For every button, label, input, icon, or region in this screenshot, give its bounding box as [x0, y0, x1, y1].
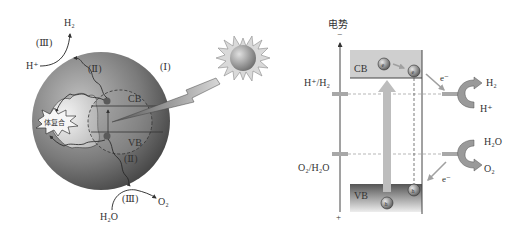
cb-label-left: CB [128, 93, 142, 104]
oxidation-product-right: O₂ [484, 163, 495, 174]
oxidation-product-left: O₂ [158, 196, 169, 207]
stage-label-transfer-bottom: (Ⅱ) [124, 153, 137, 165]
excitation-arrow-shaft [383, 90, 391, 192]
vb-label-right: VB [354, 190, 368, 201]
reduction-reactant-right: H⁺ [480, 103, 493, 114]
oxidation-reactant-right: H₂O [484, 136, 502, 147]
sun-icon [216, 36, 270, 81]
electron-cb-2: e [408, 65, 420, 77]
stage-label-reaction-top: (Ⅲ) [36, 37, 52, 49]
level-label-o2: O₂/H₂O [298, 162, 329, 173]
hole-dot [104, 133, 111, 140]
stage-label-transfer-top: (Ⅱ) [88, 63, 101, 75]
reduction-reactant-left: H⁺ [26, 60, 39, 71]
left-panel: CB VB 体复合 (Ⅰ) (Ⅱ) (Ⅱ) (Ⅲ) (Ⅲ) H⁺ H₂ H₂O … [26, 17, 270, 222]
vb-label-left: VB [128, 137, 142, 148]
svg-text:h: h [412, 188, 415, 194]
hole-vb-1: h [381, 197, 393, 209]
electron-dot [104, 98, 111, 105]
stage-label-reaction-bottom: (Ⅲ) [122, 193, 138, 205]
excitation-arrow-head [378, 80, 396, 92]
hole-arrow-label: e⁻ [442, 174, 451, 184]
hole-vb-2: h [408, 184, 420, 196]
svg-text:e: e [382, 62, 385, 68]
stage-label-absorption: (Ⅰ) [160, 61, 171, 73]
right-panel: 电势 − + H⁺/H₂ O₂/H₂O CB VB e e [298, 18, 502, 222]
svg-text:e: e [412, 69, 415, 75]
level-tick-o2 [332, 152, 348, 156]
reduction-product-left: H₂ [64, 17, 75, 28]
reduction-curved-arrow-icon [458, 77, 482, 108]
axis-top-sign: − [337, 29, 342, 39]
svg-text:h: h [385, 201, 388, 207]
axis-bottom-sign: + [336, 212, 341, 222]
level-tick-h2 [332, 92, 348, 96]
surface-region-dashed [88, 90, 152, 154]
recombination-label: 体复合 [44, 118, 65, 127]
reduction-product-right: H₂ [486, 77, 497, 88]
electron-cb-1: e [378, 58, 390, 70]
oxidation-curved-arrow-icon [458, 140, 482, 171]
level-label-h2: H⁺/H₂ [304, 77, 330, 88]
oxidation-reactant-left: H₂O [100, 211, 118, 222]
electron-arrow-label: e⁻ [440, 73, 449, 83]
reduction-site [442, 92, 458, 96]
cb-label-right: CB [354, 63, 368, 74]
photocatalysis-diagram: CB VB 体复合 (Ⅰ) (Ⅱ) (Ⅱ) (Ⅲ) (Ⅲ) H⁺ H₂ H₂O … [0, 0, 512, 236]
oxidation-site [442, 152, 458, 156]
